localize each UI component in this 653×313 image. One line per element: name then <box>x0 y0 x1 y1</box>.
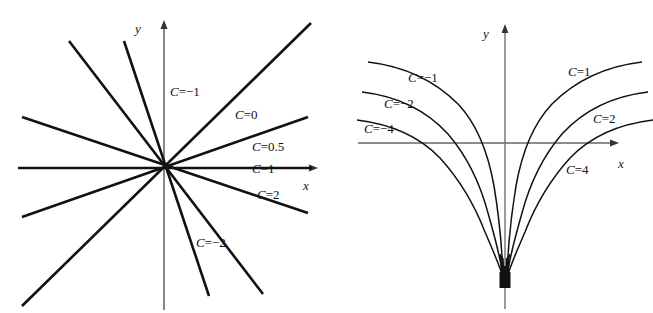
right-label-c-4-eq: =4 <box>575 162 589 177</box>
right-label-c-1-eq: =1 <box>577 64 591 79</box>
left-label-c-05: C=0.5 <box>252 139 284 154</box>
left-label-c-1-eq: =1 <box>261 161 275 176</box>
right-label-c-neg4-c: C <box>364 121 373 136</box>
right-panel-log-curves: y x C=−1 C=−2 C=−4 C=1 C=2 C=4 <box>330 0 653 313</box>
left-x-axis-label: x <box>302 178 309 193</box>
right-label-c-2: C=2 <box>593 111 616 126</box>
right-label-c-4: C=4 <box>566 162 589 177</box>
right-label-c-neg4: C=−4 <box>364 121 394 136</box>
right-label-c-1-c: C <box>568 64 577 79</box>
right-curve-c-neg4 <box>357 120 503 278</box>
left-label-c-2-c: C <box>257 187 266 202</box>
right-label-c-neg2-eq: =−2 <box>393 96 414 111</box>
left-label-c-2-eq: =2 <box>266 187 280 202</box>
left-y-axis-arrowhead <box>160 20 167 29</box>
left-label-c-0-c: C <box>235 107 244 122</box>
figure-root: y x C=−1 C=0 C=0.5 C=1 C=2 C=−2 <box>0 0 653 313</box>
left-y-axis-label: y <box>133 21 141 36</box>
right-label-c-neg4-eq: =−4 <box>373 121 395 136</box>
right-y-axis-label: y <box>481 26 489 41</box>
right-curve-c-2 <box>507 92 648 277</box>
right-label-c-neg2: C=−2 <box>384 96 414 111</box>
right-curve-c-4 <box>507 120 653 278</box>
right-label-c-neg1-c: C <box>408 70 417 85</box>
right-label-c-neg1-eq: =−1 <box>417 70 438 85</box>
left-label-c-neg2: C=−2 <box>196 235 226 250</box>
right-label-c-4-c: C <box>566 162 575 177</box>
left-label-c-neg2-c: C <box>196 235 205 250</box>
left-label-c-2: C=2 <box>257 187 280 202</box>
left-panel-straight-lines: y x C=−1 C=0 C=0.5 C=1 C=2 C=−2 <box>0 0 330 313</box>
left-label-c-05-eq: =0.5 <box>261 139 285 154</box>
left-label-c-1-c: C <box>252 161 261 176</box>
right-x-axis-arrowhead <box>610 140 619 147</box>
right-curve-c-neg2 <box>362 92 503 277</box>
left-label-c-0-eq: =0 <box>244 107 258 122</box>
right-x-axis-label: x <box>617 156 624 171</box>
right-label-c-2-c: C <box>593 111 602 126</box>
right-label-c-neg1: C=−1 <box>408 70 438 85</box>
left-label-c-1: C=1 <box>252 161 275 176</box>
right-panel-svg: y x C=−1 C=−2 C=−4 C=1 C=2 C=4 <box>330 0 653 313</box>
right-y-axis-arrowhead <box>502 24 509 33</box>
left-label-c-neg2-eq: =−2 <box>205 235 226 250</box>
right-curve-c-neg1 <box>368 62 503 276</box>
right-label-c-1: C=1 <box>568 64 591 79</box>
right-label-c-2-eq: =2 <box>602 111 616 126</box>
left-panel-svg: y x C=−1 C=0 C=0.5 C=1 C=2 C=−2 <box>0 0 330 313</box>
left-label-c-neg1-c: C <box>170 84 179 99</box>
left-label-c-neg1: C=−1 <box>170 84 200 99</box>
right-label-c-neg2-c: C <box>384 96 393 111</box>
left-label-c-05-c: C <box>252 139 261 154</box>
left-axes <box>160 20 318 310</box>
left-label-c-neg1-eq: =−1 <box>179 84 200 99</box>
left-label-c-0: C=0 <box>235 107 258 122</box>
